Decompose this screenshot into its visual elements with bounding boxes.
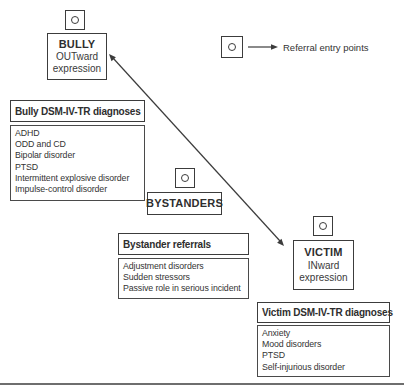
victim-node: VICTIM INward expression — [293, 240, 354, 290]
bystander-referrals-header: Bystander referrals — [118, 233, 249, 255]
bully-diagnoses-header: Bully DSM-IV-TR diagnoses — [10, 100, 145, 122]
bully-node: BULLY OUTward expression — [47, 33, 107, 80]
victim-subtitle-1: INward — [308, 260, 340, 272]
victim-entry-point-icon — [313, 216, 333, 236]
list-item: Intermittent explosive disorder — [15, 173, 140, 184]
list-item: PTSD — [262, 350, 385, 361]
bully-subtitle-2: expression — [53, 63, 101, 75]
circle-icon — [228, 43, 236, 51]
list-item: Sudden stressors — [123, 272, 244, 283]
list-item: Mood disorders — [262, 339, 385, 350]
bystanders-entry-point-icon — [175, 168, 195, 188]
list-item: ODD and CD — [15, 139, 140, 150]
list-item: ADHD — [15, 128, 140, 139]
bully-subtitle-1: OUTward — [56, 51, 98, 63]
legend-label: Referral entry points — [283, 36, 369, 58]
legend-entry-point-icon — [221, 36, 243, 58]
victim-diagnoses-header: Victim DSM-IV-TR diagnoses — [257, 302, 390, 323]
bottom-rule — [0, 383, 404, 385]
list-item: Self-injurious disorder — [262, 362, 385, 373]
arrowhead-victim-icon — [277, 239, 284, 246]
bystanders-node: BYSTANDERS — [147, 192, 222, 215]
bully-title: BULLY — [59, 38, 96, 51]
bystanders-title: BYSTANDERS — [146, 197, 223, 210]
list-item: Adjustment disorders — [123, 261, 244, 272]
circle-icon — [71, 16, 79, 24]
legend-arrowhead-icon — [271, 44, 278, 50]
diagram-canvas: Referral entry points BULLY OUTward expr… — [0, 0, 404, 391]
victim-title: VICTIM — [304, 246, 342, 259]
list-item: PTSD — [15, 162, 140, 173]
list-item: Bipolar disorder — [15, 150, 140, 161]
victim-diagnoses-list: AnxietyMood disordersPTSDSelf-injurious … — [257, 325, 390, 377]
arrowhead-bully-icon — [109, 54, 116, 61]
list-item: Passive role in serious incident — [123, 283, 244, 294]
list-item: Impulse-control disorder — [15, 184, 140, 195]
circle-icon — [319, 222, 327, 230]
bully-entry-point-icon — [65, 10, 85, 30]
list-item: Anxiety — [262, 328, 385, 339]
bully-diagnoses-list: ADHDODD and CDBipolar disorderPTSDInterm… — [10, 125, 145, 201]
circle-icon — [181, 174, 189, 182]
bystander-referrals-list: Adjustment disordersSudden stressorsPass… — [118, 258, 249, 299]
victim-subtitle-2: expression — [299, 272, 347, 284]
